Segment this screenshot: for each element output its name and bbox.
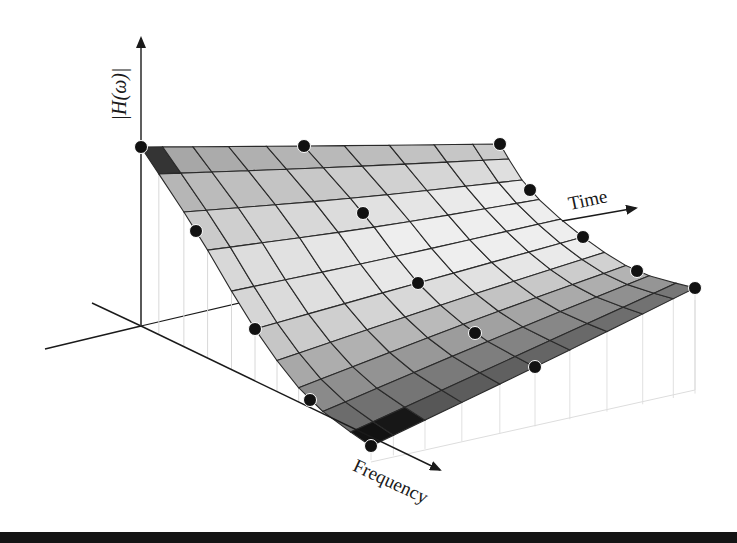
floor-axis-back: [92, 303, 141, 326]
control-point-dot: [689, 282, 702, 295]
frequency-axis-label: Frequency: [350, 455, 432, 508]
surface-mesh: [141, 144, 695, 446]
control-point-dot: [304, 394, 317, 407]
magnitude-axis-label: |H(ω)|: [108, 68, 131, 121]
control-point-dot: [357, 207, 370, 220]
control-point-dot: [365, 440, 378, 453]
time-axis-label: Time: [566, 185, 609, 214]
control-point-dot: [412, 277, 425, 290]
control-point-dot: [524, 184, 537, 197]
control-point-dot: [494, 138, 507, 151]
control-point-dot: [249, 323, 262, 336]
control-point-dot: [298, 140, 311, 153]
control-point-dot: [631, 265, 644, 278]
control-point-dot: [190, 225, 203, 238]
surface-figure: |H(ω)| Frequency Time: [0, 0, 737, 543]
control-point-dot: [469, 327, 482, 340]
control-point-dot: [529, 361, 542, 374]
control-point-dot: [577, 231, 590, 244]
bottom-rule: [0, 532, 737, 543]
floor-axis-left: [45, 326, 141, 349]
control-point-dot: [135, 141, 148, 154]
